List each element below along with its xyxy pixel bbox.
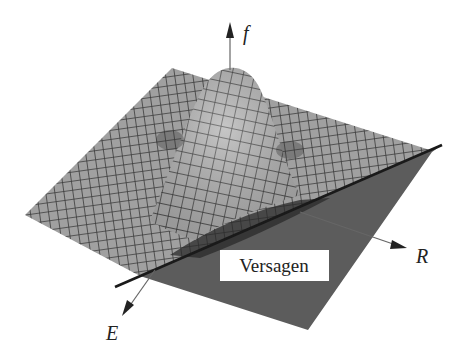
f-axis-arrowhead [226, 22, 234, 38]
surface-dip-right [276, 141, 304, 159]
e-axis-label: E [105, 322, 118, 344]
r-axis-label: R [415, 245, 428, 267]
f-axis-label: f [243, 22, 251, 45]
r-axis-arrowhead [390, 240, 407, 249]
joint-density-diagram: f R E Versagen [0, 0, 466, 352]
surface-dip-left [156, 130, 184, 150]
failure-label: Versagen [239, 255, 309, 276]
